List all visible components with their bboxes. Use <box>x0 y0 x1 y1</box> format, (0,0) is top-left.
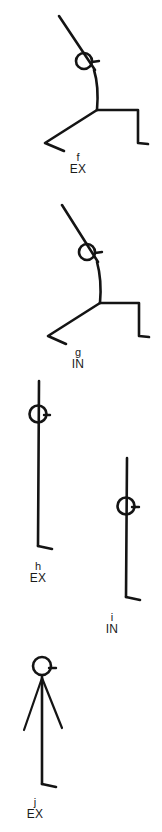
figure-j-drawing <box>24 657 62 787</box>
figure-g-breath: IN <box>58 358 98 370</box>
figure-j-caption: j EX <box>15 797 55 820</box>
figure-i-breath: IN <box>92 623 132 635</box>
figure-g-left-leg <box>48 303 100 344</box>
figure-h-breath: EX <box>18 572 58 584</box>
figure-g-right-leg <box>100 303 149 337</box>
figure-f-torso <box>94 70 98 110</box>
figure-g-torso <box>97 262 101 303</box>
figure-f-left-leg <box>45 110 97 151</box>
stick-figure-drawings <box>0 0 162 832</box>
figure-j-foot <box>42 784 56 787</box>
figure-g-caption: g IN <box>58 347 98 370</box>
figure-g-drawing <box>48 205 149 344</box>
figure-j-left-arm <box>24 678 42 730</box>
figure-i-foot <box>126 597 140 600</box>
figure-j-breath: EX <box>15 808 55 820</box>
figure-i-caption: i IN <box>92 612 132 635</box>
figure-h-foot <box>38 546 52 549</box>
stick-figure-sequence-sheet: f EX g IN h EX i IN j EX <box>0 0 162 832</box>
figure-i-drawing <box>118 458 141 600</box>
figure-j-head <box>33 657 51 675</box>
figure-f-right-leg <box>97 110 148 144</box>
figure-f-caption: f EX <box>58 152 98 175</box>
figure-f-drawing <box>45 16 148 151</box>
figure-h-drawing <box>30 381 53 549</box>
figure-h-caption: h EX <box>18 561 58 584</box>
figure-f-breath: EX <box>58 163 98 175</box>
figure-i-body <box>126 458 127 597</box>
figure-j-right-arm <box>42 678 62 728</box>
